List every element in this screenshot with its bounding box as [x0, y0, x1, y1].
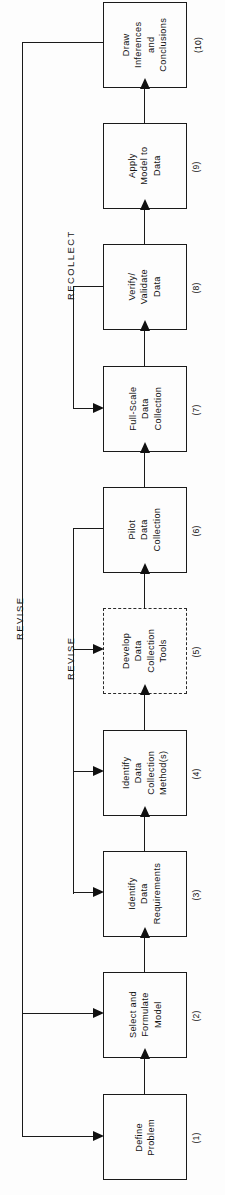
flowchart-figure: DrawInferencesandConclusions (10) ApplyM… — [0, 0, 225, 1195]
step-box-7[interactable]: Full-ScaleDataCollection — [103, 366, 187, 452]
loop-revise-inner-spine — [73, 528, 74, 894]
step-box-4[interactable]: IdentifyDataCollectionMethod(s) — [103, 730, 187, 816]
connector-5-to-6 — [144, 573, 145, 609]
step-box-6[interactable]: PilotDataCollection — [103, 487, 187, 573]
step-label-9: ApplyModel toData — [126, 147, 163, 185]
step-number-6: (6) — [190, 526, 220, 536]
connector-9-to-10 — [144, 88, 145, 124]
loop-revise-inner-branch-step5 — [73, 649, 95, 650]
loop-revise-outer-branch-step1 — [22, 1136, 95, 1137]
connector-3-to-4 — [144, 816, 145, 852]
step-box-8[interactable]: Verify/ValidateData — [103, 244, 187, 330]
step-box-9[interactable]: ApplyModel toData — [103, 123, 187, 209]
arrowhead-1-to-2 — [140, 1048, 150, 1059]
loop-label-revise-inner: REVISE — [65, 637, 76, 680]
step-number-8: (8) — [190, 283, 220, 293]
arrowhead-7-to-8 — [140, 320, 150, 331]
step-box-5[interactable]: DevelopDataCollectionTools — [103, 608, 187, 694]
step-box-3[interactable]: IdentifyDataRequirements — [103, 851, 187, 937]
step-label-3: IdentifyDataRequirements — [126, 863, 163, 924]
step-number-2: (2) — [190, 1011, 220, 1021]
step-number-10: (10) — [190, 40, 220, 50]
connector-8-to-9 — [144, 209, 145, 245]
step-label-4: IdentifyDataCollectionMethod(s) — [120, 751, 170, 796]
loop-revise-outer-tap — [22, 42, 104, 43]
step-label-1: DefineProblem — [133, 1119, 158, 1156]
step-label-2: Select andFormulateModel — [126, 992, 163, 1039]
arrowhead-recollect-step7 — [93, 403, 104, 413]
step-label-6: PilotDataCollection — [126, 508, 163, 552]
step-number-1: (1) — [190, 1133, 220, 1143]
step-number-5: (5) — [190, 647, 220, 657]
step-number-9: (9) — [190, 162, 220, 172]
arrowhead-revise-inner-step3 — [93, 887, 104, 897]
loop-recollect-branch-step7 — [73, 408, 95, 409]
arrowhead-6-to-7 — [140, 442, 150, 453]
arrowhead-revise-inner-step4 — [93, 766, 104, 776]
loop-label-revise-outer: REVISE — [14, 597, 25, 640]
loop-revise-inner-branch-step3 — [73, 892, 95, 893]
loop-recollect-tap — [73, 286, 104, 287]
step-label-7: Full-ScaleDataCollection — [126, 387, 163, 431]
step-label-10: DrawInferencesandConclusions — [120, 18, 170, 72]
step-box-1[interactable]: DefineProblem — [103, 1094, 187, 1180]
loop-revise-inner-branch-step4 — [73, 771, 95, 772]
connector-1-to-2 — [144, 1058, 145, 1094]
arrowhead-8-to-9 — [140, 199, 150, 210]
step-number-3: (3) — [190, 890, 220, 900]
connector-2-to-3 — [144, 937, 145, 973]
loop-recollect-spine — [73, 286, 74, 409]
step-number-7: (7) — [190, 405, 220, 415]
step-box-10[interactable]: DrawInferencesandConclusions — [103, 2, 187, 88]
arrowhead-3-to-4 — [140, 806, 150, 817]
loop-label-recollect: RECOLLECT — [65, 230, 76, 300]
connector-4-to-5 — [144, 694, 145, 730]
loop-revise-outer-spine — [22, 42, 23, 1137]
step-label-8: Verify/ValidateData — [126, 269, 163, 304]
connector-6-to-7 — [144, 452, 145, 488]
step-box-2[interactable]: Select andFormulateModel — [103, 972, 187, 1058]
arrowhead-revise-outer-step2 — [93, 1008, 104, 1018]
arrowhead-revise-inner-step5 — [93, 644, 104, 654]
connector-7-to-8 — [144, 330, 145, 366]
loop-revise-inner-tap — [73, 528, 104, 529]
loop-revise-outer-branch-step2 — [22, 1013, 95, 1014]
arrowhead-9-to-10 — [140, 78, 150, 89]
arrowhead-revise-outer-step1 — [93, 1131, 104, 1141]
arrowhead-2-to-3 — [140, 927, 150, 938]
arrowhead-5-to-6 — [140, 563, 150, 574]
arrowhead-4-to-5 — [140, 684, 150, 695]
step-number-4: (4) — [190, 769, 220, 779]
step-label-5: DevelopDataCollectionTools — [120, 629, 170, 673]
